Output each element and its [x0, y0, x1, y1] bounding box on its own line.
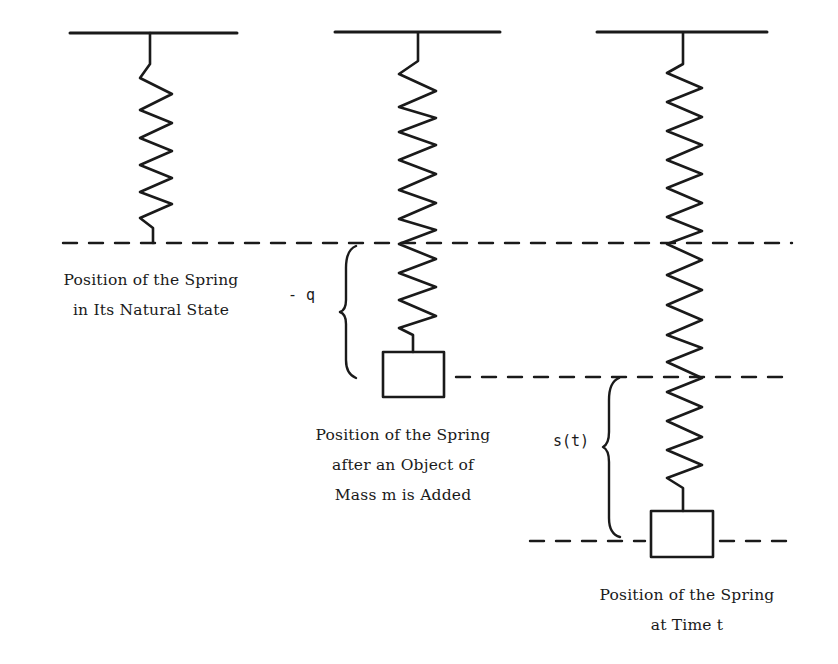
caption-line: Position of the Spring [562, 580, 812, 610]
caption-line: after an Object of [278, 450, 528, 480]
mass-block-2 [651, 511, 713, 557]
spring-diagram [0, 0, 838, 664]
caption-line: at Time t [562, 610, 812, 640]
label-s-of-t: s(t) [553, 432, 589, 450]
caption-mass-added: Position of the Spring after an Object o… [278, 420, 528, 510]
label-minus-q: - q [288, 286, 315, 304]
spring-natural [140, 33, 172, 243]
brace-equilibrium-offset [340, 246, 356, 378]
caption-line: in Its Natural State [18, 295, 284, 325]
spring-time-t [667, 33, 702, 511]
brace-displacement [603, 378, 620, 537]
caption-natural-state: Position of the Spring in Its Natural St… [18, 265, 284, 325]
caption-line: Position of the Spring [278, 420, 528, 450]
caption-time-t: Position of the Spring at Time t [562, 580, 812, 640]
spring-mass-added [399, 33, 436, 352]
mass-block-1 [383, 352, 444, 397]
caption-line: Mass m is Added [278, 480, 528, 510]
caption-line: Position of the Spring [18, 265, 284, 295]
